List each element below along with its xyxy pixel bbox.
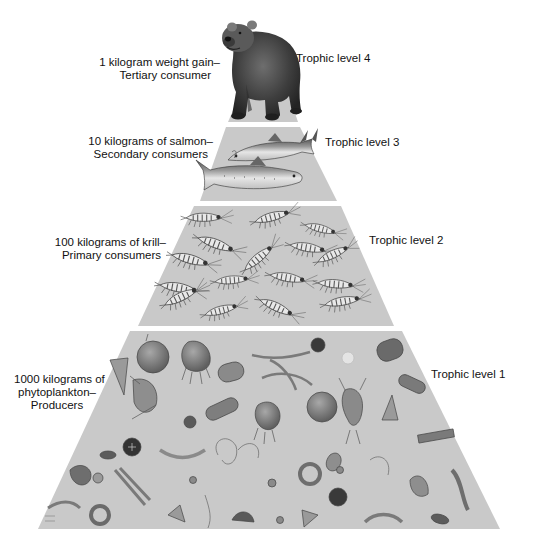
tier-2-level-label: Trophic level 2: [369, 234, 443, 247]
tier-3-mass-label: 10 kilograms of salmon– Secondary consum…: [88, 135, 213, 161]
pyramid-graphic: [0, 0, 536, 557]
tier-1-level-label: Trophic level 1: [431, 368, 505, 381]
tier-3-level-label: Trophic level 3: [325, 136, 399, 149]
tier-4-level-label: Trophic level 4: [296, 52, 370, 65]
trophic-pyramid-diagram: 1 kilogram weight gain– Tertiary consume…: [0, 0, 536, 557]
tier-2-mass-label: 100 kilograms of krill– Primary consumer…: [55, 236, 166, 262]
tier-1-mass-label: 1000 kilograms of phytoplankton– Produce…: [14, 373, 100, 412]
tier-4-mass-label: 1 kilogram weight gain– Tertiary consume…: [99, 56, 220, 82]
tier-2-shape: [138, 206, 394, 326]
